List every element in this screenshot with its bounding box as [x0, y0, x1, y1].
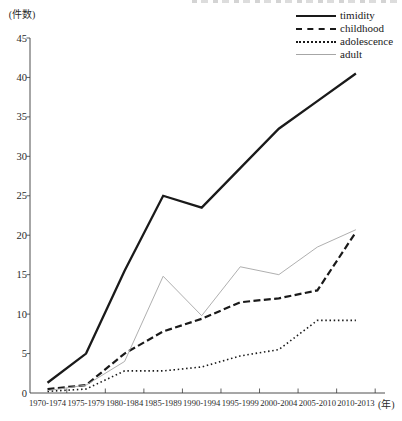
x-category-label: 1985-1989 — [145, 398, 182, 408]
data-series-lines — [48, 73, 356, 391]
legend-item-childhood: childhood — [296, 23, 393, 34]
x-axis-ticks — [67, 389, 375, 394]
x-category-label: 1975-1979 — [67, 398, 104, 408]
legend-label: adult — [340, 49, 362, 60]
series-line-timidity — [48, 73, 356, 382]
legend-label: timidity — [340, 10, 375, 21]
y-tick-label: 20 — [17, 230, 28, 241]
chart-figure: 051015202530354045 1970-19741975-1979198… — [0, 0, 402, 421]
chart-legend: timiditychildhoodadolescenceadult — [296, 10, 393, 60]
x-category-label: 1990-1994 — [183, 398, 221, 408]
y-tick-label: 5 — [22, 348, 27, 359]
legend-label: adolescence — [340, 36, 393, 47]
legend-line-sample-adolescence — [296, 41, 336, 43]
legend-line-sample-adult — [296, 54, 336, 55]
y-tick-label: 30 — [17, 151, 28, 162]
y-axis-labels: 051015202530354045 — [17, 33, 28, 399]
y-tick-label: 40 — [17, 72, 28, 83]
x-category-label: 2010-2013 — [337, 398, 374, 408]
y-tick-label: 0 — [22, 388, 27, 399]
series-line-childhood — [48, 232, 356, 389]
x-category-label: 1970-1974 — [29, 398, 67, 408]
x-category-label: 1995-1999 — [222, 398, 259, 408]
y-tick-label: 25 — [17, 190, 28, 201]
legend-item-adult: adult — [296, 49, 393, 60]
legend-item-timidity: timidity — [296, 10, 393, 21]
y-axis-ticks — [27, 38, 31, 354]
x-category-label: 2005-2010 — [299, 398, 336, 408]
series-line-adult — [48, 230, 356, 391]
line-chart: 051015202530354045 1970-19741975-1979198… — [0, 0, 402, 421]
x-axis-unit-label: (年) — [378, 398, 395, 411]
legend-line-sample-timidity — [296, 15, 336, 17]
y-tick-label: 15 — [17, 269, 28, 280]
y-tick-label: 10 — [17, 309, 28, 320]
x-category-label: 1980-1984 — [106, 398, 144, 408]
x-category-label: 2000-2004 — [260, 398, 298, 408]
x-axis-labels: 1970-19741975-19791980-19841985-19891990… — [29, 398, 375, 408]
legend-label: childhood — [340, 23, 384, 34]
y-axis-unit-label: (件数) — [9, 8, 36, 21]
y-tick-label: 45 — [17, 33, 28, 44]
legend-line-sample-childhood — [296, 28, 336, 30]
y-tick-label: 35 — [17, 111, 28, 122]
legend-item-adolescence: adolescence — [296, 36, 393, 47]
